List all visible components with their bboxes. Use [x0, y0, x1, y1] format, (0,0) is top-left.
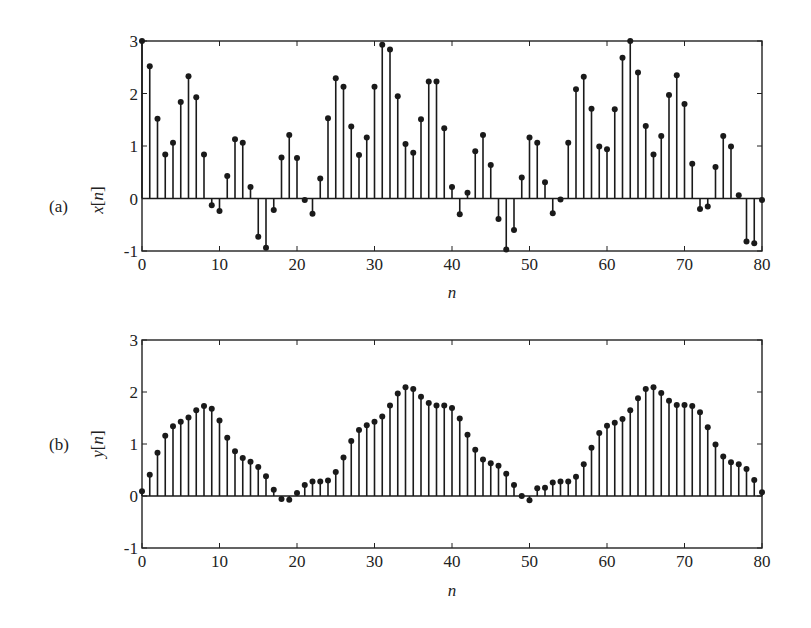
stem-marker: [387, 46, 393, 52]
stem-marker: [759, 197, 765, 203]
stem-marker: [147, 472, 153, 478]
x-tick-label: 70: [676, 255, 693, 274]
stem-marker: [620, 416, 626, 422]
x-tick-label: 20: [289, 552, 306, 571]
stem-marker: [317, 176, 323, 182]
stem-marker: [651, 151, 657, 157]
stem-marker: [348, 438, 354, 444]
stem-marker: [519, 175, 525, 181]
stem-plot-figure: (a) x[n] n 01020304050607080-10123 (b) y…: [0, 0, 811, 628]
panel-a-xlabel: n: [448, 283, 457, 302]
panel-b-xlabel: n: [448, 581, 457, 600]
stem-marker: [728, 144, 734, 150]
stem-marker: [635, 70, 641, 76]
stem-marker: [333, 75, 339, 81]
stem-marker: [612, 420, 618, 426]
stem-marker: [604, 423, 610, 429]
stem-marker: [317, 478, 323, 484]
stem-marker: [658, 133, 664, 139]
stem-marker: [186, 414, 192, 420]
stem-marker: [643, 123, 649, 129]
panel-a: (a) x[n] n 01020304050607080-10123: [49, 32, 771, 302]
stem-marker: [209, 202, 215, 208]
stem-marker: [271, 487, 277, 493]
stem-marker: [713, 442, 719, 448]
stem-marker: [457, 416, 463, 422]
stem-marker: [410, 150, 416, 156]
stem-marker: [534, 485, 540, 491]
stem-marker: [751, 240, 757, 246]
stem-marker: [224, 173, 230, 179]
stem-marker: [341, 84, 347, 90]
panel-a-ylabel: x[n]: [88, 186, 107, 214]
stem-marker: [170, 423, 176, 429]
stem-marker: [627, 38, 633, 44]
stem-marker: [565, 478, 571, 484]
stem-marker: [705, 203, 711, 209]
stem-marker: [201, 403, 207, 409]
stem-marker: [643, 386, 649, 392]
panel-b-axes: 01020304050607080-10123: [124, 331, 771, 571]
x-tick-label: 60: [599, 552, 616, 571]
stem-marker: [759, 489, 765, 495]
stem-marker: [441, 125, 447, 131]
stem-marker: [550, 210, 556, 216]
stem-marker: [418, 394, 424, 400]
stem-marker: [232, 136, 238, 142]
stem-marker: [147, 63, 153, 69]
stem-marker: [558, 197, 564, 203]
stem-marker: [248, 184, 254, 190]
x-tick-label: 50: [521, 255, 538, 274]
x-tick-label: 40: [444, 552, 461, 571]
stem-marker: [170, 140, 176, 146]
stem-marker: [488, 460, 494, 466]
x-tick-label: 80: [754, 552, 771, 571]
stem-marker: [620, 55, 626, 61]
stem-marker: [550, 479, 556, 485]
stem-marker: [294, 155, 300, 161]
stem-marker: [542, 485, 548, 491]
panel-a-label: (a): [49, 197, 68, 216]
stem-marker: [705, 424, 711, 430]
x-tick-label: 40: [444, 255, 461, 274]
x-tick-label: 70: [676, 552, 693, 571]
y-tick-label: 0: [130, 190, 139, 209]
x-tick-label: 60: [599, 255, 616, 274]
stem-marker: [558, 478, 564, 484]
stem-marker: [263, 473, 269, 479]
stem-marker: [341, 455, 347, 461]
stem-marker: [325, 477, 331, 483]
stem-marker: [217, 208, 223, 214]
stem-marker: [379, 42, 385, 48]
x-tick-label: 20: [289, 255, 306, 274]
stem-marker: [596, 430, 602, 436]
stem-marker: [286, 132, 292, 138]
stem-marker: [651, 384, 657, 390]
stem-marker: [534, 140, 540, 146]
panel-b-label: (b): [49, 435, 69, 454]
stem-marker: [503, 471, 509, 477]
stem-marker: [434, 78, 440, 84]
stem-marker: [744, 239, 750, 245]
stem-marker: [263, 245, 269, 251]
stem-marker: [713, 164, 719, 170]
stem-marker: [201, 151, 207, 157]
stem-marker: [434, 403, 440, 409]
stem-marker: [612, 106, 618, 112]
stem-marker: [527, 497, 533, 503]
stem-marker: [139, 488, 145, 494]
stem-marker: [271, 207, 277, 213]
stem-marker: [751, 477, 757, 483]
stem-marker: [162, 433, 168, 439]
y-tick-label: 0: [130, 487, 139, 506]
stem-marker: [240, 455, 246, 461]
stem-marker: [379, 413, 385, 419]
stem-marker: [193, 94, 199, 100]
stem-marker: [418, 116, 424, 122]
stem-marker: [565, 140, 571, 146]
stem-marker: [503, 246, 509, 252]
stem-marker: [666, 398, 672, 404]
x-tick-label: 0: [138, 255, 147, 274]
stem-marker: [310, 211, 316, 217]
stem-marker: [488, 162, 494, 168]
